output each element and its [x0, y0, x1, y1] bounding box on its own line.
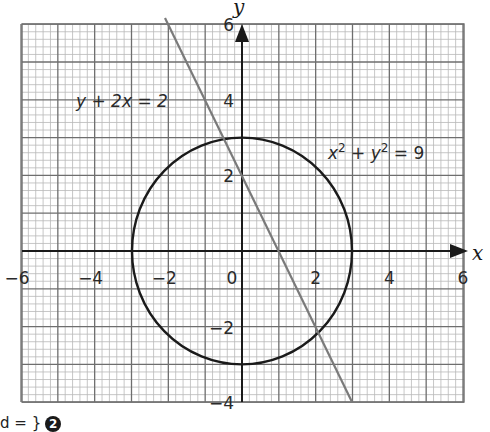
tick-labels: −6−4−20246−4−2246: [4, 15, 468, 413]
x-axis-arrow-icon: [450, 244, 468, 258]
circle-eq-x-sup: 2: [338, 141, 346, 155]
footer-text: d = }: [0, 414, 41, 432]
line-equation-label: y + 2x = 2: [75, 91, 168, 111]
y-tick-label: −4: [209, 393, 234, 413]
circle-eq-plus: +: [346, 143, 371, 163]
x-tick-label: 2: [310, 268, 321, 288]
y-axis-arrow-icon: [235, 24, 249, 42]
x-tick-label: −2: [152, 268, 177, 288]
question-number-badge: 2: [45, 416, 61, 432]
y-tick-label: 4: [223, 91, 234, 111]
x-tick-label: 0: [227, 268, 238, 288]
x-tick-label: −6: [4, 268, 29, 288]
circle-equation-label: x2 + y2 = 9: [327, 141, 424, 163]
x-tick-label: −4: [78, 268, 103, 288]
y-tick-label: −2: [209, 318, 234, 338]
x-axis-label: x: [472, 241, 483, 265]
y-tick-label: 2: [223, 166, 234, 186]
footer-fragment: d = }2: [0, 414, 61, 432]
y-tick-label: 6: [223, 15, 234, 35]
circle-eq-y-sup: 2: [381, 141, 389, 155]
line-y-plus-2x-eq-2: [165, 18, 352, 402]
x-tick-label: 4: [384, 268, 395, 288]
circle-eq-rhs: = 9: [388, 143, 424, 163]
x-tick-label: 6: [458, 268, 469, 288]
